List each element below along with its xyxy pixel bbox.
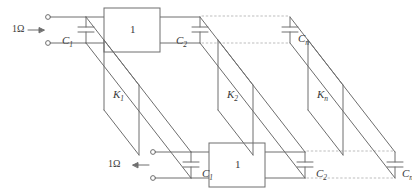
coupler-label-Kn-sub: n [324,94,328,103]
coupler-label-K2: K2 [227,89,238,103]
capacitor-C2-top [192,17,208,43]
coupler-label-K1-sub: 1 [120,94,124,103]
cap-label-C1-top: C1 [62,35,73,49]
terminal-top-lower [46,41,51,46]
terminal-bottom-upper [151,150,156,155]
capacitor-C2-bottom [297,152,313,178]
arrow-top-input [28,28,44,33]
capacitor-Cn-top [282,17,298,43]
cap-label-Cn-top: Cn [298,33,309,47]
cap-label-C1-top-sub: 1 [69,40,73,49]
block-top-label: 1 [130,24,136,35]
block-bottom-label: 1 [235,159,241,170]
dotted-rails-top [202,16,289,43]
port-label-bottom: 1Ω [108,159,120,169]
cap-label-Cn-top-sub: n [305,38,309,47]
circuit-diagram-canvas [0,0,412,188]
capacitor-C1-top [78,17,94,43]
coupler-label-K1: K1 [113,89,124,103]
coupler-label-K2-sub: 2 [234,94,238,103]
terminal-bottom-lower [151,176,156,181]
cap-label-C2-top: C2 [176,35,187,49]
figure-root: 1Ω 1Ω 1 1 C1 C2 Cn C1 C2 Cn K1 K2 Kn [0,0,412,188]
cap-label-C1-bottom: C1 [202,168,213,182]
cap-label-C2-bottom: C2 [316,168,327,182]
terminal-top-upper [46,15,51,20]
cap-label-Cn-bottom: Cn [402,168,412,182]
port-label-top: 1Ω [12,24,24,34]
coupler-label-Kn: Kn [317,89,328,103]
cap-label-C2-top-sub: 2 [183,40,187,49]
cap-label-C2-bottom-sub: 2 [323,173,327,182]
cap-label-C1-bottom-sub: 1 [209,173,213,182]
arrow-bottom-output [133,163,149,168]
capacitor-Cn-bottom [387,152,403,178]
capacitor-C1-bottom [183,152,199,178]
